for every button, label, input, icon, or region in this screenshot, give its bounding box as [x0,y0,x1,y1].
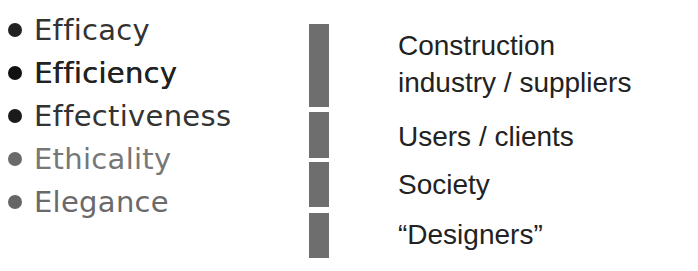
stakeholder-designers: “Designers” [398,219,543,251]
stakeholder-society: Society [398,169,490,201]
criteria-list: Efficacy Efficiency Effectiveness Ethica… [8,8,231,223]
criteria-label: Ethicality [34,142,172,176]
bracket-bar-designers [309,213,329,258]
criteria-item-effectiveness: Effectiveness [8,94,231,137]
criteria-label: Effectiveness [34,99,231,133]
bullet-icon [8,23,22,37]
criteria-item-elegance: Elegance [8,180,231,223]
criteria-label: Efficacy [34,13,150,47]
stakeholder-construction-line2: industry / suppliers [398,67,631,99]
bullet-icon [8,109,22,123]
stakeholder-construction-line1: Construction [398,30,555,62]
criteria-item-efficiency: Efficiency [8,51,231,94]
criteria-item-ethicality: Ethicality [8,137,231,180]
bracket-bar-construction [309,24,329,107]
stakeholder-users: Users / clients [398,121,574,153]
criteria-label: Efficiency [34,56,177,90]
criteria-item-efficacy: Efficacy [8,8,231,51]
bullet-icon [8,66,22,80]
bullet-icon [8,195,22,209]
bullet-icon [8,152,22,166]
bracket-bar-society [309,162,329,207]
criteria-label: Elegance [34,185,169,219]
bracket-bar-users [309,112,329,158]
